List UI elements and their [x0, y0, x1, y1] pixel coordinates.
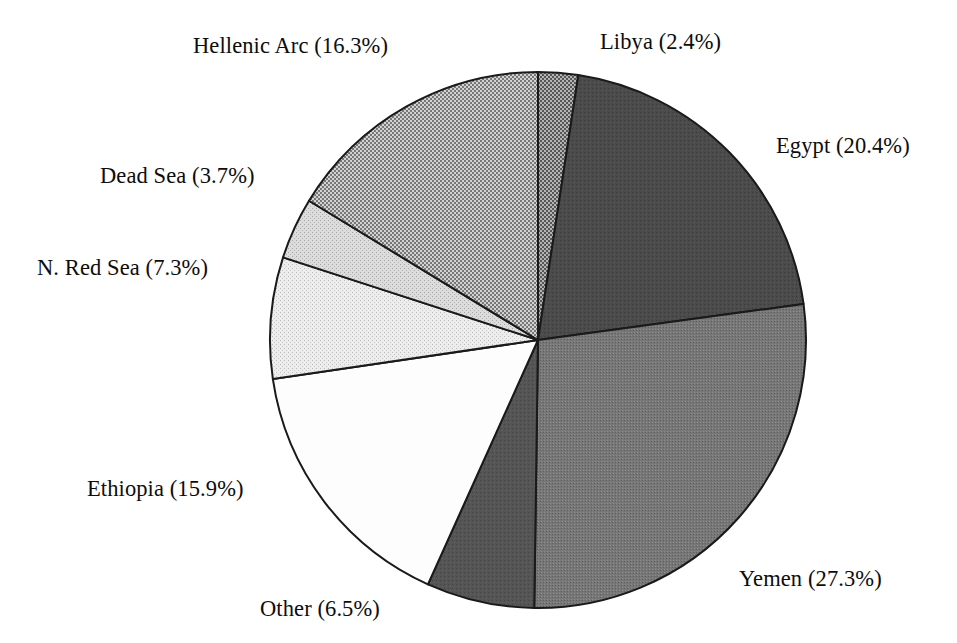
- pie-label-libya: Libya (2.4%): [600, 30, 721, 54]
- pie-label-other: Other (6.5%): [260, 597, 380, 621]
- pie-chart-svg: [0, 0, 957, 643]
- pie-label-hellenic-arc: Hellenic Arc (16.3%): [193, 34, 388, 58]
- pie-slices-group: [270, 72, 806, 608]
- pie-label-dead-sea: Dead Sea (3.7%): [100, 164, 255, 188]
- pie-slice-egypt: [538, 75, 804, 340]
- pie-label-ethiopia: Ethiopia (15.9%): [87, 477, 244, 501]
- pie-label-egypt: Egypt (20.4%): [776, 134, 910, 158]
- pie-chart-figure: Hellenic Arc (16.3%) Libya (2.4%) Egypt …: [0, 0, 957, 643]
- pie-label-n-red-sea: N. Red Sea (7.3%): [37, 256, 208, 280]
- pie-slice-yemen: [534, 304, 806, 608]
- pie-label-yemen: Yemen (27.3%): [739, 567, 882, 591]
